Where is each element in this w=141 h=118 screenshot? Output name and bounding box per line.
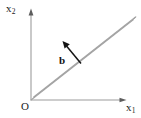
x2-axis-label-main: x xyxy=(6,2,12,14)
x2-axis-label-subscript: 2 xyxy=(12,7,16,16)
inclined-double-line xyxy=(31,17,136,100)
x1-axis xyxy=(31,98,127,103)
normal-vector-arrowhead-icon xyxy=(63,41,70,49)
origin-label: O xyxy=(21,101,29,112)
vector-diagram-figure: x2 x1 O b xyxy=(0,0,141,118)
plane-line-lower-edge xyxy=(31,20,134,101)
x1-axis-label: x1 xyxy=(126,102,135,115)
x2-axis-label: x2 xyxy=(6,3,15,16)
x2-axis xyxy=(29,9,34,101)
x2-axis-arrowhead-icon xyxy=(29,9,34,16)
normal-vector-shaft xyxy=(67,46,82,64)
normal-vector-label: b xyxy=(59,55,65,66)
x1-axis-label-main: x xyxy=(126,101,132,113)
x1-axis-label-subscript: 1 xyxy=(132,106,136,115)
normal-vector-b xyxy=(63,41,82,64)
plane-line-upper-edge xyxy=(33,17,135,98)
